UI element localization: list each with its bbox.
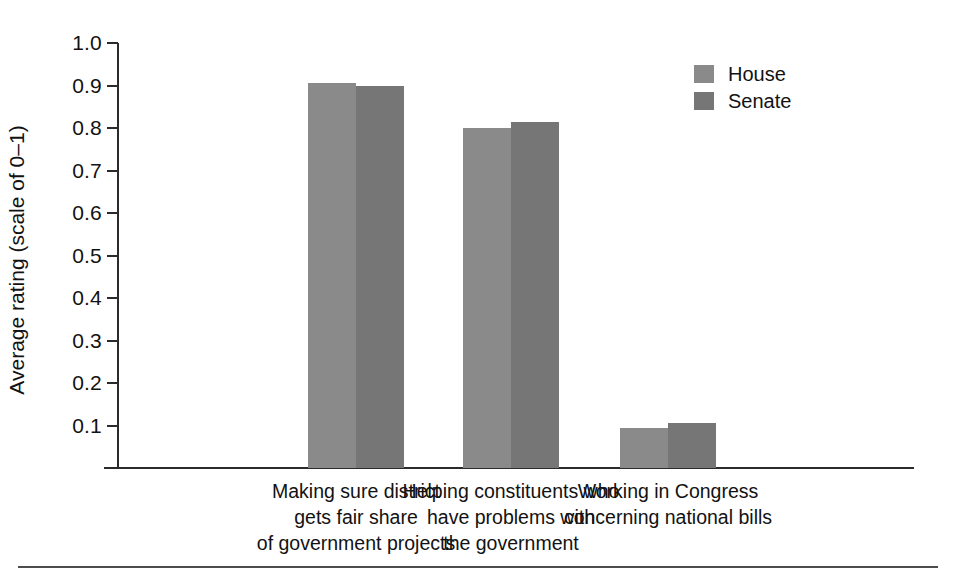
y-axis-tick-label: 0.4 xyxy=(40,287,102,308)
category-label-line: the government xyxy=(361,530,661,556)
bar-house xyxy=(308,83,356,468)
y-axis-tick-label: 0.6 xyxy=(40,202,102,223)
legend-swatch-icon xyxy=(694,92,714,110)
y-axis-tick-label: 0.1 xyxy=(40,415,102,436)
y-axis-tick-label: 0.9 xyxy=(40,75,102,96)
bar-house xyxy=(463,128,511,468)
y-axis-tick-mark xyxy=(107,85,118,87)
y-axis-tick-label: 0.7 xyxy=(40,160,102,181)
y-axis-tick-mark xyxy=(107,212,118,214)
legend-label: Senate xyxy=(728,91,791,111)
y-axis-tick-label: 0.8 xyxy=(40,117,102,138)
y-axis-tick-mark xyxy=(107,42,118,44)
category-label: Working in Congressconcerning national b… xyxy=(518,478,818,530)
bottom-divider-rule xyxy=(18,566,938,568)
category-label-line: Working in Congress xyxy=(518,478,818,504)
y-axis-tick-label: 0.2 xyxy=(40,372,102,393)
y-axis-tick-mark xyxy=(107,170,118,172)
y-axis-tick-label: 1.0 xyxy=(40,32,102,53)
y-axis-tick-mark xyxy=(107,297,118,299)
bar-group xyxy=(308,43,404,468)
x-axis-category-labels: Making sure districtgets fair shareof go… xyxy=(118,478,918,558)
bar-group xyxy=(463,43,559,468)
y-axis-tick-mark xyxy=(107,255,118,257)
bar-senate xyxy=(668,423,716,468)
y-axis-tick-mark xyxy=(107,425,118,427)
y-axis-tick-labels: 1.00.90.80.70.60.50.40.30.20.1 xyxy=(30,0,102,582)
category-label-line: concerning national bills xyxy=(518,504,818,530)
y-axis-title: Average rating (scale of 0–1) xyxy=(5,0,29,520)
legend-item-house: House xyxy=(694,60,894,87)
bar-chart-figure: Average rating (scale of 0–1) 1.00.90.80… xyxy=(0,0,954,582)
legend-swatch-icon xyxy=(694,65,714,83)
y-axis-tick-mark xyxy=(107,340,118,342)
legend-label: House xyxy=(728,64,786,84)
bar-house xyxy=(620,428,668,468)
y-axis-tick-label: 0.3 xyxy=(40,330,102,351)
bar-senate xyxy=(356,86,404,469)
bar-senate xyxy=(511,122,559,468)
y-axis-tick-label: 0.5 xyxy=(40,245,102,266)
legend-item-senate: Senate xyxy=(694,87,894,114)
y-axis-tick-mark xyxy=(107,382,118,384)
y-axis-tick-mark xyxy=(107,127,118,129)
chart-legend: HouseSenate xyxy=(694,60,894,114)
